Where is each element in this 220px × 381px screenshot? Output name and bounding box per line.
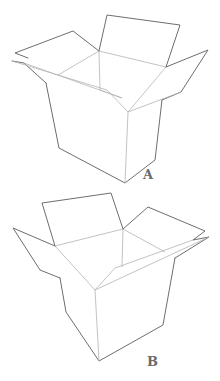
box-illustrations (0, 0, 220, 381)
box-b-label: B (147, 355, 158, 368)
box-a-label: A (143, 168, 153, 181)
box-a-front-left-flap (12, 61, 46, 83)
box-b-back-flap (42, 193, 123, 246)
box-a-back-flap (99, 15, 180, 67)
box-a-left-flap (15, 31, 99, 58)
box-a-drawing (12, 15, 208, 183)
box-b-left-flap (13, 228, 60, 278)
box-b-right-flap (123, 207, 209, 258)
box-b-body-outline (60, 258, 175, 361)
box-b-drawing (13, 193, 209, 361)
